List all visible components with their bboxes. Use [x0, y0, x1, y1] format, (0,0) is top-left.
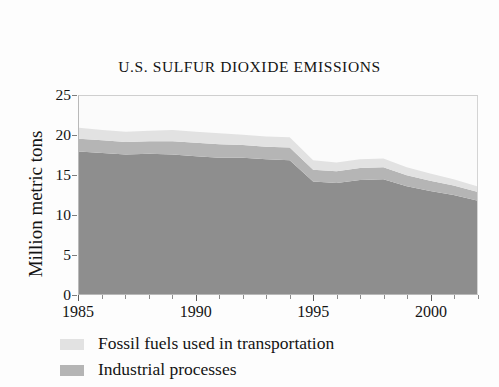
x-minor-tick-1988: [149, 295, 150, 299]
x-minor-tick-1998: [384, 295, 385, 299]
x-minor-tick-2002: [478, 295, 479, 299]
stacked-area-chart: [79, 96, 477, 294]
legend-label-industrial: Industrial processes: [98, 361, 237, 379]
legend-item-transport: Fossil fuels used in transportation: [60, 331, 490, 357]
x-minor-tick-2001: [454, 295, 455, 299]
y-tick-10: 10: [56, 206, 79, 224]
y-tick-mark: [72, 255, 77, 256]
x-minor-tick-1989: [172, 295, 173, 299]
x-minor-tick-1986: [102, 295, 103, 299]
x-tick-label-1985: 1985: [62, 303, 94, 321]
chart-title: U.S. SULFUR DIOXIDE EMISSIONS: [0, 58, 499, 76]
y-tick-mark: [72, 175, 77, 176]
y-tick-mark: [72, 215, 77, 216]
y-tick-5: 5: [63, 246, 78, 264]
x-minor-tick-1987: [125, 295, 126, 299]
x-tick-label-1995: 1995: [297, 303, 329, 321]
x-major-tick-1995: [313, 295, 314, 301]
x-minor-tick-1997: [360, 295, 361, 299]
legend-item-industrial: Industrial processes: [60, 357, 490, 383]
x-minor-tick-1994: [290, 295, 291, 299]
x-major-tick-2000: [431, 295, 432, 301]
y-tick-mark: [72, 295, 77, 296]
plot-area: 0510152025 1985199019952000: [78, 95, 478, 295]
y-tick-mark: [72, 95, 77, 96]
y-tick-25: 25: [56, 86, 79, 104]
x-major-tick-1990: [196, 295, 197, 301]
chart-legend: Fossil fuels used in transportation Indu…: [60, 331, 490, 383]
figure-page: U.S. SULFUR DIOXIDE EMISSIONS Million me…: [0, 0, 499, 387]
x-minor-tick-1991: [219, 295, 220, 299]
plot-frame: [78, 95, 478, 295]
y-axis-label: Million metric tons: [25, 89, 47, 319]
x-major-tick-1985: [78, 295, 79, 301]
x-tick-label-1990: 1990: [180, 303, 212, 321]
y-tick-15: 15: [56, 166, 79, 184]
y-tick-0: 0: [63, 286, 78, 304]
x-minor-tick-1996: [337, 295, 338, 299]
x-minor-tick-1992: [243, 295, 244, 299]
legend-swatch-industrial: [60, 365, 84, 376]
x-minor-tick-1999: [407, 295, 408, 299]
y-tick-mark: [72, 135, 77, 136]
y-tick-20: 20: [56, 126, 79, 144]
x-minor-tick-1993: [266, 295, 267, 299]
legend-swatch-transport: [60, 339, 84, 350]
x-tick-label-2000: 2000: [415, 303, 447, 321]
legend-label-transport: Fossil fuels used in transportation: [98, 335, 334, 353]
